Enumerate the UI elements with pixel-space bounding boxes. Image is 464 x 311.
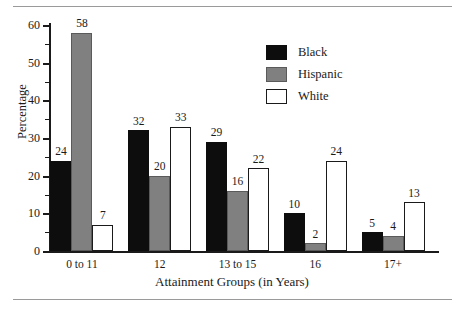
bar-value-label: 29 [202,127,232,139]
bar-value-label: 22 [244,154,274,166]
x-tick-label: 12 [115,258,205,270]
bar-value-label: 7 [88,210,118,222]
x-tick-label: 16 [270,258,360,270]
legend-item-hispanic: Hispanic [266,64,342,85]
bar-value-label: 24 [321,146,351,158]
bar-hispanic-2 [227,191,248,251]
bar-hispanic-3 [305,243,326,251]
bar-black-1 [128,130,149,251]
bar-white-3 [326,161,347,251]
legend-swatch-icon [266,45,287,60]
x-axis-line [43,251,439,253]
y-tick-label: 10 [10,207,40,219]
y-tick-label: 60 [10,19,40,31]
plot-area: 24587322033291622102245413 [49,25,438,251]
bar-white-1 [170,127,191,251]
bar-hispanic-4 [383,236,404,251]
y-axis-title: Percentage [15,62,30,162]
x-axis-title: Attainment Groups (in Years) [0,274,464,290]
legend: BlackHispanicWhite [266,42,342,108]
bar-black-4 [362,232,383,251]
bar-value-label: 32 [124,116,154,128]
bar-hispanic-1 [149,176,170,251]
x-tick-label: 17+ [348,258,438,270]
legend-item-black: Black [266,42,342,63]
legend-label: Black [298,46,327,59]
legend-label: Hispanic [298,68,342,81]
x-tick-label: 13 to 15 [193,258,283,270]
bar-value-label: 10 [279,199,309,211]
bar-black-2 [206,142,227,251]
legend-item-white: White [266,86,342,107]
bar-white-4 [404,202,425,251]
bottom-rule [13,299,452,300]
legend-label: White [298,90,329,103]
bar-white-0 [92,225,113,251]
y-tick-label: 0 [10,245,40,257]
bar-value-label: 33 [166,112,196,124]
bar-value-label: 13 [399,188,429,200]
y-tick-label: 20 [10,170,40,182]
figure: 0102030405060 Percentage 245873220332916… [0,0,464,311]
y-tick-major [43,251,51,253]
x-tick-label: 0 to 11 [37,258,127,270]
legend-swatch-icon [266,67,287,82]
bar-black-0 [50,161,71,251]
legend-swatch-icon [266,89,287,104]
bar-white-2 [248,168,269,251]
top-rule [13,6,452,7]
bar-value-label: 58 [67,18,97,30]
